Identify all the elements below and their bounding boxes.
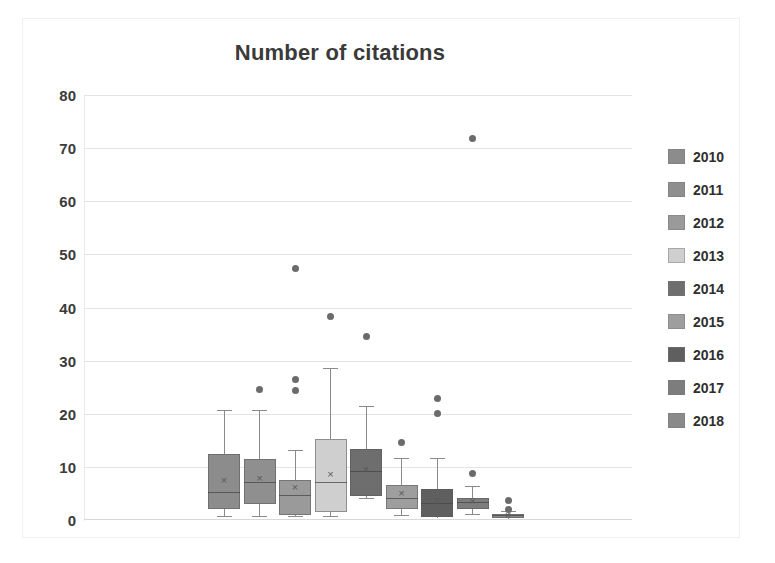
mean-marker-icon xyxy=(433,496,442,505)
whisker-cap-lower xyxy=(394,515,409,516)
y-axis-tick-label: 80 xyxy=(32,87,76,104)
outlier-point xyxy=(469,470,476,477)
whisker-upper xyxy=(295,451,296,480)
outlier-point xyxy=(434,395,441,402)
legend-item-2017[interactable]: 2017 xyxy=(668,371,768,404)
y-axis-tick-label: 20 xyxy=(32,405,76,422)
boxplot-2012[interactable] xyxy=(279,95,311,520)
legend-swatch-icon xyxy=(668,281,685,296)
legend-item-label: 2011 xyxy=(693,182,723,198)
mean-marker-icon xyxy=(362,465,371,474)
y-axis-tick-label: 70 xyxy=(32,140,76,157)
whisker-upper xyxy=(401,459,402,486)
whisker-lower xyxy=(259,504,260,517)
boxplot-2010[interactable] xyxy=(208,95,240,520)
boxplot-2015[interactable] xyxy=(386,95,418,520)
y-axis-ticks: 80706050403020100 xyxy=(26,95,76,520)
median-line xyxy=(208,492,240,493)
outlier-point xyxy=(505,506,512,513)
legend-item-2012[interactable]: 2012 xyxy=(668,206,768,239)
median-line xyxy=(279,495,311,496)
outlier-point xyxy=(292,265,299,272)
outlier-point xyxy=(327,313,334,320)
outlier-point xyxy=(469,135,476,142)
whisker-cap-lower xyxy=(252,516,267,517)
median-line xyxy=(315,482,347,483)
boxplot-2016[interactable] xyxy=(421,95,453,520)
legend-swatch-icon xyxy=(668,413,685,428)
legend-item-label: 2018 xyxy=(693,413,724,429)
boxplot-2017[interactable] xyxy=(457,95,489,520)
boxplot-2018[interactable] xyxy=(492,95,524,520)
mean-marker-icon xyxy=(291,483,300,492)
legend-swatch-icon xyxy=(668,248,685,263)
legend-item-2013[interactable]: 2013 xyxy=(668,239,768,272)
whisker-cap-upper xyxy=(430,458,445,459)
y-axis-tick-label: 30 xyxy=(32,352,76,369)
legend-swatch-icon xyxy=(668,380,685,395)
whisker-upper xyxy=(259,411,260,459)
legend-swatch-icon xyxy=(668,215,685,230)
mean-marker-icon xyxy=(468,497,477,506)
y-axis-tick-label: 0 xyxy=(32,512,76,529)
whisker-cap-upper xyxy=(465,486,480,487)
legend-item-label: 2017 xyxy=(693,380,724,396)
whisker-cap-lower xyxy=(217,516,232,517)
chart-title: Number of citations xyxy=(90,40,590,66)
whisker-upper xyxy=(366,407,367,450)
mean-marker-icon xyxy=(397,489,406,498)
outlier-point xyxy=(363,333,370,340)
legend-item-label: 2013 xyxy=(693,248,724,264)
boxplot-2013[interactable] xyxy=(315,95,347,520)
y-axis-tick-label: 40 xyxy=(32,299,76,316)
legend-item-2010[interactable]: 2010 xyxy=(668,140,768,173)
legend-item-label: 2016 xyxy=(693,347,724,363)
whisker-cap-lower xyxy=(465,514,480,515)
whisker-cap-lower xyxy=(323,516,338,517)
whisker-cap-lower xyxy=(359,498,374,499)
whisker-cap-upper xyxy=(288,450,303,451)
whisker-cap-upper xyxy=(217,410,232,411)
legend-swatch-icon xyxy=(668,314,685,329)
mean-marker-icon xyxy=(220,476,229,485)
boxplot-2014[interactable] xyxy=(350,95,382,520)
legend-item-label: 2012 xyxy=(693,215,724,231)
boxplot-2011[interactable] xyxy=(244,95,276,520)
whisker-cap-upper xyxy=(323,368,338,369)
outlier-point xyxy=(292,376,299,383)
mean-marker-icon xyxy=(255,474,264,483)
legend-swatch-icon xyxy=(668,149,685,164)
whisker-upper xyxy=(437,459,438,489)
legend-item-label: 2010 xyxy=(693,149,724,165)
whisker-cap-upper xyxy=(252,410,267,411)
whisker-cap-upper xyxy=(394,458,409,459)
outlier-point xyxy=(505,497,512,504)
chart-legend: 201020112012201320142015201620172018 xyxy=(668,140,768,437)
legend-item-label: 2014 xyxy=(693,281,724,297)
y-axis-tick-label: 50 xyxy=(32,246,76,263)
outlier-point xyxy=(398,439,405,446)
mean-marker-icon xyxy=(326,470,335,479)
chart-root: Number of citations 80706050403020100 20… xyxy=(0,0,775,563)
plot-area xyxy=(84,95,632,520)
legend-item-label: 2015 xyxy=(693,314,724,330)
legend-item-2018[interactable]: 2018 xyxy=(668,404,768,437)
outlier-point xyxy=(292,387,299,394)
legend-item-2015[interactable]: 2015 xyxy=(668,305,768,338)
whisker-upper xyxy=(330,369,331,439)
legend-item-2016[interactable]: 2016 xyxy=(668,338,768,371)
outlier-point xyxy=(434,410,441,417)
legend-item-2014[interactable]: 2014 xyxy=(668,272,768,305)
y-axis-tick-label: 60 xyxy=(32,193,76,210)
y-axis-tick-label: 10 xyxy=(32,458,76,475)
legend-swatch-icon xyxy=(668,182,685,197)
whisker-upper xyxy=(224,411,225,454)
legend-item-2011[interactable]: 2011 xyxy=(668,173,768,206)
legend-swatch-icon xyxy=(668,347,685,362)
whisker-cap-lower xyxy=(288,516,303,517)
whisker-cap-upper xyxy=(359,406,374,407)
